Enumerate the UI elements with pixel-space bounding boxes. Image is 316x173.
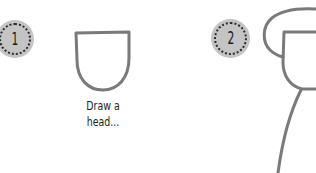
step-number: 1 [12,31,19,48]
step-number: 2 [227,30,234,47]
head-outline-step-1 [76,32,129,90]
face-outline-step-2 [283,32,316,89]
caption-line-1: Draw a [70,98,136,114]
sketch-illustrations [0,0,316,173]
caption-line-2: head... [70,114,136,130]
body-line-step-2 [278,90,301,173]
step-1-caption: Draw a head... [70,98,136,130]
drawing-tutorial-panel: 1 Draw a head... 2 [0,0,316,173]
step-badge-2: 2 [211,19,250,58]
